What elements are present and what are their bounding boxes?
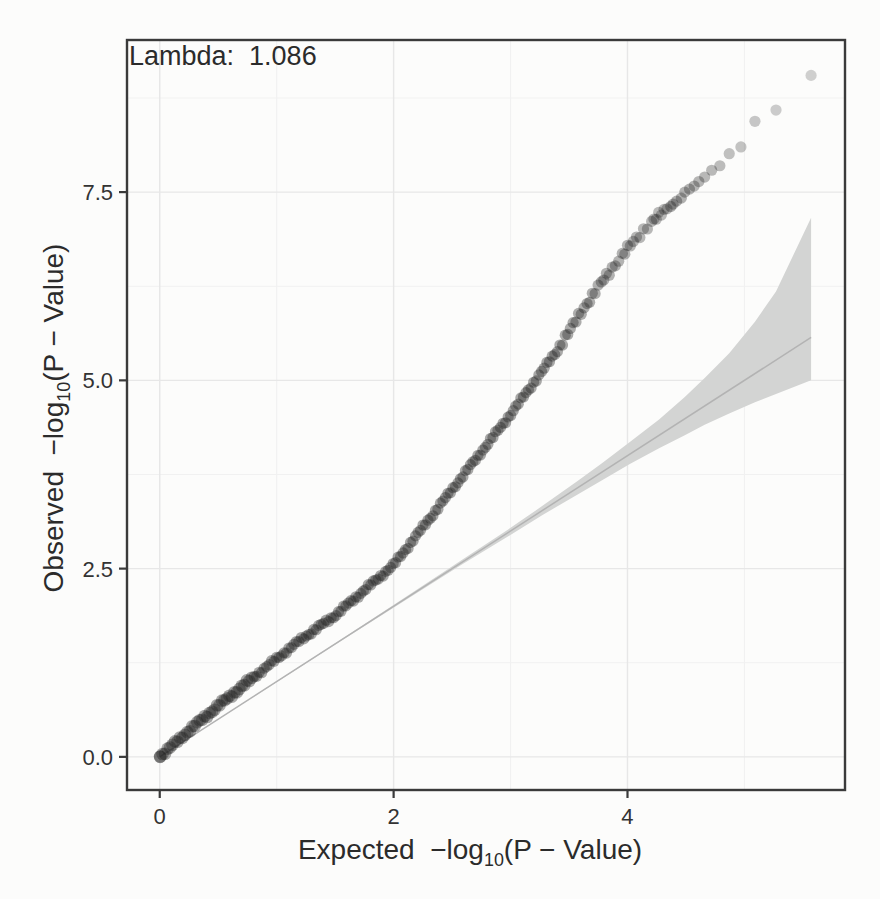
y-axis-title-subscript: 10 — [54, 382, 74, 402]
qq-plot-page: 0240.02.55.07.5 Lambda: 1.086 Expected −… — [0, 0, 880, 899]
y-axis-title: Observed −log10(P − Value) — [38, 244, 70, 593]
y-tick-label: 5.0 — [82, 368, 113, 393]
panel — [127, 40, 845, 790]
identity-line-layer — [160, 337, 811, 756]
qq-plot-chart: 0240.02.55.07.5 — [0, 0, 880, 899]
qq-point — [665, 201, 676, 212]
qq-point — [749, 116, 760, 127]
qq-point — [805, 70, 816, 81]
y-tick-label: 7.5 — [82, 180, 113, 205]
y-axis-title-text: Observed −log — [38, 402, 69, 593]
qq-point — [724, 148, 735, 159]
y-tick-label: 2.5 — [82, 557, 113, 582]
x-axis-title-subscript: 10 — [484, 850, 504, 870]
y-tick-label: 0.0 — [82, 745, 113, 770]
panel-border — [127, 40, 845, 790]
identity-line — [160, 337, 811, 756]
lambda-annotation: Lambda: 1.086 — [129, 42, 317, 72]
qq-point — [154, 750, 167, 763]
grid-major — [127, 40, 845, 790]
x-tick-label: 0 — [154, 804, 166, 829]
qq-point — [735, 141, 746, 152]
qq-point — [560, 330, 571, 341]
grid-minor — [127, 40, 845, 790]
x-axis-title-text: Expected −log — [298, 834, 484, 865]
y-axis-title-suffix: (P − Value) — [38, 244, 69, 382]
qq-point — [770, 104, 781, 115]
x-tick-label: 4 — [621, 804, 633, 829]
x-tick-label: 2 — [387, 804, 399, 829]
x-axis-title: Expected −log10(P − Value) — [298, 834, 642, 866]
x-axis-title-suffix: (P − Value) — [504, 834, 642, 865]
